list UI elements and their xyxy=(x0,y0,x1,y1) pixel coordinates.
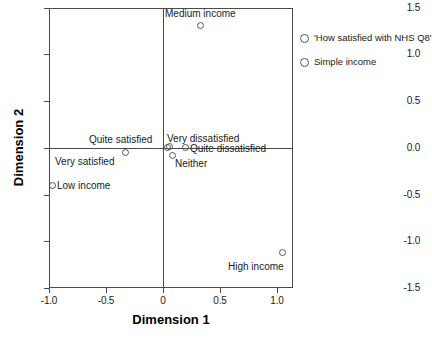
data-point-high-income[interactable] xyxy=(279,249,286,256)
y-ticklabel-neg1.5: -1.5 xyxy=(380,283,420,293)
x-tick-0 xyxy=(163,288,164,293)
y-tick-0.0 xyxy=(44,148,49,149)
data-label-medium-income: Medium income xyxy=(165,8,236,19)
y-ticklabel-neg0.5: -0.5 xyxy=(380,190,420,200)
x-ticklabel-neg0.5: -0.5 xyxy=(86,296,126,306)
data-point-quite-dissatisfied[interactable] xyxy=(182,144,189,151)
y-tick-0.5 xyxy=(44,101,49,102)
y-ticklabel-1.5: 1.5 xyxy=(380,3,420,13)
data-label-quite-satisfied: Quite satisfied xyxy=(89,134,152,145)
x-tick-0.5 xyxy=(220,288,221,293)
x-tick-neg1.0 xyxy=(49,288,50,293)
x-tick-1.0 xyxy=(277,288,278,293)
legend-label-income: Simple income xyxy=(314,57,376,67)
data-point-very-dissatisfied[interactable] xyxy=(166,143,173,150)
x-ticklabel-0: 0 xyxy=(143,296,183,306)
data-label-quite-dissatisfied: Quite dissatisfied xyxy=(190,143,266,154)
y-tick-neg0.5 xyxy=(44,195,49,196)
x-tick-neg0.5 xyxy=(106,288,107,293)
data-label-high-income: High income xyxy=(228,261,284,272)
data-label-neither: Neither xyxy=(175,158,207,169)
data-label-low-income: Low income xyxy=(57,180,110,191)
y-ticklabel-0.5: 0.5 xyxy=(380,96,420,106)
y-ticklabel-0.0: 0.0 xyxy=(380,143,420,153)
y-tick-1.5 xyxy=(44,8,49,9)
y-ticklabel-neg1.0: -1.0 xyxy=(380,236,420,246)
data-point-quite-satisfied[interactable] xyxy=(122,149,129,156)
x-ticklabel-1.0: 1.0 xyxy=(257,296,297,306)
x-ticklabel-neg1.0: -1.0 xyxy=(29,296,69,306)
y-tick-1.0 xyxy=(44,54,49,55)
x-ticklabel-0.5: 0.5 xyxy=(200,296,240,306)
circle-marker-icon xyxy=(300,58,309,67)
legend-item-satisfaction[interactable]: 'How satisfied with NHS Q8' xyxy=(300,33,420,43)
data-point-low-income[interactable] xyxy=(49,182,56,189)
x-axis-title: Dimension 1 xyxy=(49,312,293,327)
y-axis-title: Dimension 2 xyxy=(11,68,26,228)
legend: 'How satisfied with NHS Q8' Simple incom… xyxy=(300,33,420,81)
circle-marker-icon xyxy=(300,34,309,43)
legend-label-satisfaction: 'How satisfied with NHS Q8' xyxy=(314,33,432,43)
y-tick-neg1.0 xyxy=(44,241,49,242)
data-label-very-satisfied: Very satisfied xyxy=(55,156,114,167)
data-point-medium-income[interactable] xyxy=(197,22,204,29)
legend-item-income[interactable]: Simple income xyxy=(300,57,420,67)
